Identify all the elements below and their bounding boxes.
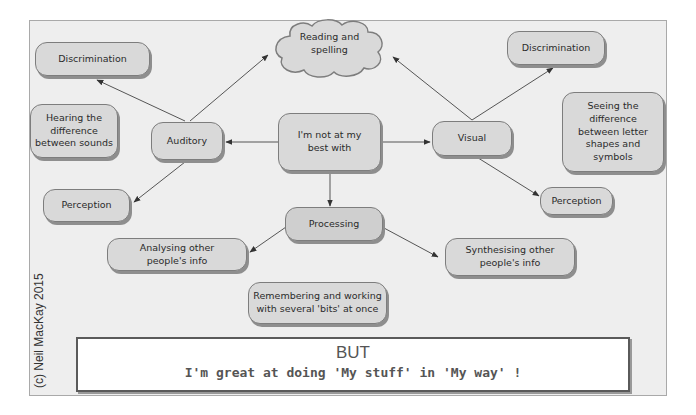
synthesising-node: Synthesising other people's info [445, 238, 575, 276]
processing-label: Processing [309, 218, 360, 231]
but-subtitle: I'm great at doing 'My stuff' in 'My way… [78, 365, 628, 380]
visual-discrimination-label: Discrimination [522, 42, 591, 55]
remembering-node: Remembering and working with several 'bi… [248, 282, 387, 324]
visual-label: Visual [458, 132, 486, 145]
auditory-perception-label: Perception [61, 199, 111, 212]
hearing-difference-label: Hearing the difference between sounds [35, 112, 113, 150]
auditory-perception-node: Perception [43, 189, 130, 222]
copyright-text: (c) Neil MacKay 2015 [32, 273, 46, 388]
but-callout-box: BUT I'm great at doing 'My stuff' in 'My… [76, 337, 630, 392]
visual-discrimination-node: Discrimination [507, 31, 605, 65]
but-title: BUT [78, 343, 628, 363]
center-node: I'm not at my best with [278, 113, 381, 171]
remembering-label: Remembering and working with several 'bi… [253, 290, 381, 316]
synthesising-label: Synthesising other people's info [466, 244, 555, 270]
auditory-discrimination-label: Discrimination [58, 53, 127, 66]
seeing-difference-label: Seeing the difference between letter sha… [578, 100, 648, 164]
processing-node: Processing [285, 207, 383, 241]
center-label: I'm not at my best with [298, 129, 362, 155]
hearing-difference-node: Hearing the difference between sounds [30, 104, 118, 158]
visual-node: Visual [432, 121, 512, 156]
reading-spelling-node: Reading and spelling [282, 30, 377, 57]
auditory-discrimination-node: Discrimination [35, 42, 150, 76]
auditory-label: Auditory [167, 135, 207, 148]
auditory-node: Auditory [151, 122, 223, 160]
analysing-label: Analysing other people's info [140, 242, 215, 268]
seeing-difference-node: Seeing the difference between letter sha… [562, 92, 664, 172]
visual-perception-label: Perception [551, 195, 601, 208]
visual-perception-node: Perception [540, 187, 613, 215]
analysing-node: Analysing other people's info [107, 238, 247, 271]
